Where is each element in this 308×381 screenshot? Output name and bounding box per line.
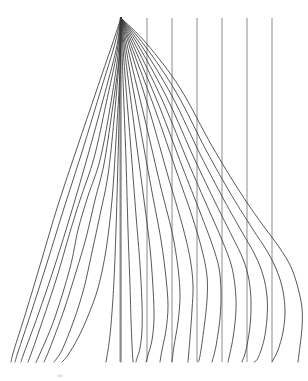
artifact-speck-group bbox=[57, 375, 63, 378]
figure-root bbox=[0, 0, 308, 381]
spaghetti-plot-svg bbox=[0, 0, 308, 381]
artifact-speck bbox=[57, 375, 63, 378]
